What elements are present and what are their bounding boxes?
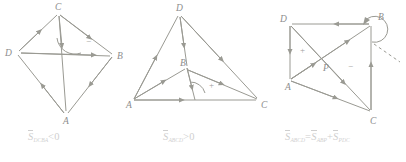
panel-3-edges: [290, 16, 400, 111]
caption-1-symbol: S: [28, 131, 33, 142]
caption-panel-2: SABCD>0: [163, 131, 195, 143]
caption-1-subscript: DCBA: [33, 137, 48, 143]
caption-2-subscript: ABCD: [168, 137, 183, 143]
vertex-label-a-3: A: [284, 82, 291, 92]
caption-1-relation: <0: [48, 131, 60, 142]
vertex-label-p: P: [322, 63, 329, 73]
caption-3-symbol2: S: [311, 131, 316, 142]
edge-a-c-3-arrow: [291, 81, 336, 98]
vertex-label-b-3: B: [378, 12, 384, 22]
diagonal-d-c-3-arrow: [291, 26, 344, 83]
sign-label-plus-3: +: [300, 45, 305, 55]
caption-3-symbol3: S: [333, 131, 338, 142]
caption-panel-3: SABCD=SABP+SPDC: [285, 131, 350, 143]
caption-2-symbol: S: [163, 131, 168, 142]
vertex-label-d-3: D: [279, 14, 287, 24]
signed-area-figure-sheet: C B A D −: [0, 0, 406, 162]
caption-3-subscript2: ABP: [317, 137, 327, 143]
sign-label-minus-3: −: [348, 61, 353, 71]
dashed-leader: [374, 44, 400, 62]
caption-2-relation: >0: [183, 131, 195, 142]
caption-3-symbol: S: [285, 131, 290, 142]
diagonal-a-b-3-arrow2: [291, 64, 314, 79]
vertex-label-c-3: C: [370, 116, 377, 126]
caption-panel-1: SDCBA<0: [28, 131, 60, 143]
caption-3-subscript: ABCD: [290, 137, 305, 143]
caption-3-subscript3: PDC: [338, 137, 349, 143]
